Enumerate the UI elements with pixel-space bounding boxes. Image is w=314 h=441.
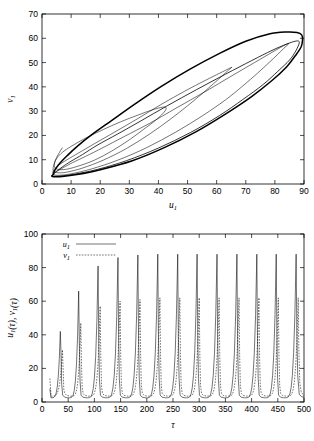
time-series-svg: 050100150200250300350400450500 020406080… — [0, 220, 314, 441]
x-tick-label: 250 — [166, 404, 180, 414]
axis-ticks — [42, 234, 304, 402]
y-axis-label: v1 — [5, 95, 16, 102]
x-axis-label: u1 — [169, 200, 177, 211]
figure-container: 0102030405060708090 010203040506070 u1v1… — [0, 0, 314, 441]
x-tick-label: 50 — [183, 186, 193, 196]
time-series-plot-area: 050100150200250300350400450500 020406080… — [24, 229, 312, 414]
y-tick-labels: 010203040506070 — [29, 9, 39, 189]
time-series-panel: 050100150200250300350400450500 020406080… — [0, 220, 314, 441]
x-tick-label: 20 — [95, 186, 105, 196]
x-tick-label: 0 — [40, 186, 45, 196]
x-tick-label: 150 — [114, 404, 128, 414]
phase-portrait-svg: 0102030405060708090 010203040506070 u1v1 — [0, 0, 314, 220]
y-tick-label: 70 — [29, 9, 39, 19]
x-tick-label: 0 — [40, 404, 45, 414]
x-tick-label: 500 — [297, 404, 311, 414]
legend-label-v1: v1 — [63, 251, 70, 261]
x-tick-label: 90 — [299, 186, 309, 196]
series-u1 — [50, 254, 304, 398]
y-tick-label: 80 — [29, 263, 39, 273]
x-tick-label: 70 — [241, 186, 251, 196]
series-v1 — [50, 298, 304, 396]
y-axis-label: u1(τ), v1(τ) — [5, 298, 20, 338]
trajectory-curves — [52, 32, 303, 177]
x-tick-label: 200 — [140, 404, 154, 414]
y-tick-label: 10 — [29, 155, 39, 165]
x-tick-label: 80 — [270, 186, 280, 196]
x-tick-labels: 0102030405060708090 — [40, 186, 309, 196]
y-tick-label: 20 — [29, 363, 39, 373]
x-axis-label: τ — [171, 420, 175, 430]
y-tick-label: 40 — [29, 330, 39, 340]
y-tick-label: 20 — [29, 130, 39, 140]
y-tick-label: 40 — [29, 82, 39, 92]
x-tick-label: 30 — [125, 186, 135, 196]
y-tick-label: 60 — [29, 296, 39, 306]
y-tick-label: 100 — [24, 229, 38, 239]
x-tick-label: 300 — [192, 404, 206, 414]
y-tick-labels: 020406080100 — [24, 229, 38, 407]
x-tick-label: 450 — [271, 404, 285, 414]
legend: u1v1 — [63, 240, 116, 261]
y-tick-label: 50 — [29, 58, 39, 68]
x-tick-label: 40 — [154, 186, 164, 196]
phase-portrait-plot-area: 0102030405060708090 010203040506070 — [29, 9, 309, 196]
y-tick-label: 0 — [33, 179, 38, 189]
x-tick-label: 350 — [218, 404, 232, 414]
y-tick-label: 30 — [29, 106, 39, 116]
orbit-orbit-3 — [52, 43, 288, 175]
x-tick-label: 60 — [212, 186, 222, 196]
x-tick-label: 50 — [63, 404, 73, 414]
x-tick-label: 400 — [245, 404, 259, 414]
x-tick-label: 100 — [87, 404, 101, 414]
plot-frame — [42, 234, 304, 402]
y-tick-label: 0 — [33, 397, 38, 407]
x-tick-label: 10 — [66, 186, 76, 196]
phase-portrait-panel: 0102030405060708090 010203040506070 u1v1 — [0, 0, 314, 220]
legend-label-u1: u1 — [63, 240, 70, 250]
y-tick-label: 60 — [29, 33, 39, 43]
x-tick-labels: 050100150200250300350400450500 — [40, 404, 312, 414]
oscillation-curves — [50, 254, 304, 398]
